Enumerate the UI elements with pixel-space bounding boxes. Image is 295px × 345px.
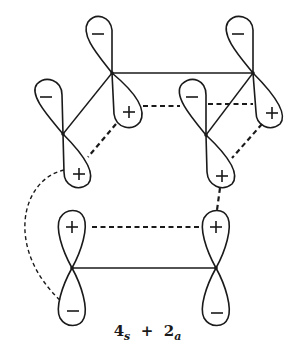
plus-sign-d (73, 168, 85, 180)
atom-c (204, 133, 208, 137)
atom-d (61, 132, 65, 136)
term2-number: 2 (164, 322, 174, 340)
term1-subscript: s (124, 330, 130, 343)
phase-signs (40, 34, 278, 313)
orbitals (35, 16, 283, 325)
orbital-b-lower-lobe (253, 73, 283, 128)
plus-sign-a (123, 106, 135, 118)
orbital-a-upper-lobe (86, 16, 112, 73)
atom-f (214, 266, 218, 270)
orbital-f-lower-lobe (202, 268, 229, 326)
plus-sign-c (216, 170, 228, 182)
interaction-a-d (88, 124, 116, 157)
orbital-d-lower-lobe (63, 134, 91, 188)
interaction-b-c (232, 124, 262, 158)
orbital-c-lower-lobe (206, 135, 235, 188)
term2-subscript: a (174, 330, 181, 343)
orbital-e-upper-lobe (58, 211, 85, 269)
orbital-b-upper-lobe (226, 16, 253, 73)
orbital-interactions (25, 104, 262, 302)
plus-sign-e (66, 221, 78, 233)
orbital-c-upper-lobe (179, 80, 206, 135)
orbital-a-lower-lobe (112, 73, 142, 128)
sigma-bonds (63, 73, 253, 268)
atom-a (110, 71, 114, 75)
bond-a-d (63, 73, 112, 134)
diagram-caption: 4s + 2a (0, 322, 295, 343)
plus-sign-f (210, 221, 222, 233)
orbital-e-lower-lobe (58, 268, 85, 326)
atom-b (251, 71, 255, 75)
atom-e (70, 266, 74, 270)
interaction-c-f (217, 188, 220, 210)
orbital-diagram (0, 0, 295, 345)
caption-operator: + (141, 322, 154, 340)
plus-sign-b (266, 107, 278, 119)
interaction-d-e-arc (25, 170, 64, 302)
orbital-f-upper-lobe (202, 211, 229, 269)
term1-number: 4 (114, 322, 124, 340)
orbital-d-upper-lobe (35, 80, 63, 134)
